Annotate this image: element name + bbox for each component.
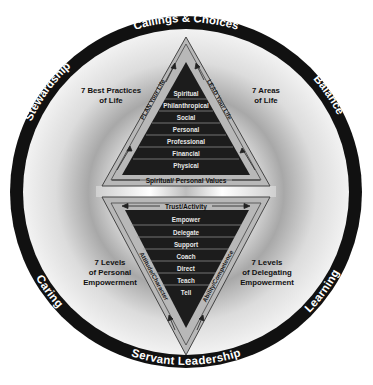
upper-level-2: Philanthropical [163,102,209,110]
spiritual-personal-values-label: Spiritual/ Personal Values [146,177,227,185]
lower-level-3: Support [174,241,199,249]
upper-level-7: Physical [173,162,199,170]
svg-text:of Personal: of Personal [89,268,131,277]
lower-level-7: Tell [181,289,192,296]
upper-level-1: Spiritual [173,90,198,98]
svg-text:Empowerment: Empowerment [240,278,294,287]
svg-text:7 Best Practices: 7 Best Practices [81,86,142,95]
upper-right-side-label: 7 Areas of Life [252,86,281,105]
svg-text:of Life: of Life [99,96,123,105]
upper-level-5: Professional [167,138,205,145]
upper-level-6: Financial [172,150,200,157]
svg-text:7 Levels: 7 Levels [252,258,283,267]
lower-level-2: Delegate [173,229,200,237]
lower-level-5: Direct [177,265,196,272]
trust-activity-label: Trust/Activity [165,203,207,211]
svg-text:of Delegating: of Delegating [242,268,292,277]
middle-band [96,186,276,197]
svg-text:of Life: of Life [254,96,278,105]
svg-text:7 Areas: 7 Areas [252,86,281,95]
upper-level-4: Personal [173,126,200,133]
diagram-canvas: Callings & Choices Balance Stewardship C… [0,0,373,385]
lower-level-6: Teach [177,277,195,284]
svg-text:7 Levels: 7 Levels [95,258,126,267]
lower-level-1: Empower [172,216,201,224]
lower-level-4: Coach [176,253,195,260]
svg-text:Empowerment: Empowerment [83,278,137,287]
upper-level-3: Social [177,114,196,121]
